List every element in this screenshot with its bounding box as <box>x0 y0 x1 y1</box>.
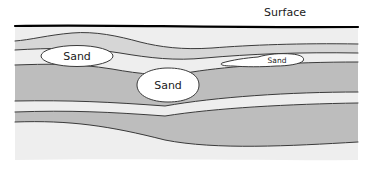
surface-label: Surface <box>264 6 306 19</box>
cross-section-canvas: Sand Sand Sand Surface <box>0 0 371 175</box>
sand-lens-center-label: Sand <box>154 79 182 92</box>
cross-section-figure: Sand Sand Sand Surface <box>0 0 371 175</box>
sand-lens-right-label: Sand <box>268 56 287 65</box>
sand-lens-left-label: Sand <box>63 50 91 63</box>
